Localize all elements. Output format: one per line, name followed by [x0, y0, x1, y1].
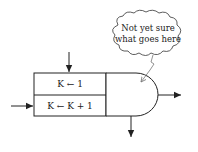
decision-node [106, 73, 158, 116]
flowchart-diagram: K ← 1 K ← K + 1 Not yet sure what goes h… [0, 0, 198, 152]
cloud-text-line-1: Not yet sure [121, 23, 175, 33]
thought-cloud: Not yet sure what goes here [113, 10, 181, 55]
increment-box-label: K ← K + 1 [47, 101, 93, 111]
init-box-label: K ← 1 [57, 79, 83, 89]
cloud-text-line-2: what goes here [115, 34, 181, 44]
